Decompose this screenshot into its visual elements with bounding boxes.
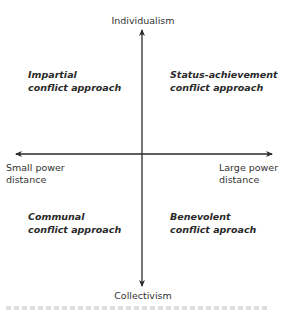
quadrant-subtitle: conflict approach <box>28 81 121 94</box>
quadrant-status-achievement: Status-achievement conflict approach <box>170 68 277 94</box>
quadrant-diagram: Individualism Collectivism Small power d… <box>0 0 298 310</box>
axis-label-line: distance <box>6 174 65 186</box>
quadrant-communal: Communal conflict approach <box>28 210 121 236</box>
quadrant-title: Communal <box>28 210 121 223</box>
clipped-caption <box>6 306 268 310</box>
axis-label-line: Small power <box>6 162 65 174</box>
quadrant-subtitle: conflict approach <box>170 81 277 94</box>
axis-label-small-power-distance: Small power distance <box>6 162 65 186</box>
quadrant-title: Status-achievement <box>170 68 277 81</box>
axis-label-individualism: Individualism <box>0 15 286 27</box>
axis-label-collectivism: Collectivism <box>0 290 286 302</box>
quadrant-title: Benevolent <box>170 210 256 223</box>
axis-label-line: Large power <box>219 162 278 174</box>
quadrant-benevolent: Benevolent conflict aproach <box>170 210 256 236</box>
quadrant-subtitle: conflict approach <box>28 223 121 236</box>
quadrant-subtitle: conflict aproach <box>170 223 256 236</box>
axis-label-line: distance <box>219 174 278 186</box>
axis-label-large-power-distance: Large power distance <box>219 162 278 186</box>
quadrant-impartial: Impartial conflict approach <box>28 68 121 94</box>
quadrant-title: Impartial <box>28 68 121 81</box>
axes <box>0 0 298 310</box>
